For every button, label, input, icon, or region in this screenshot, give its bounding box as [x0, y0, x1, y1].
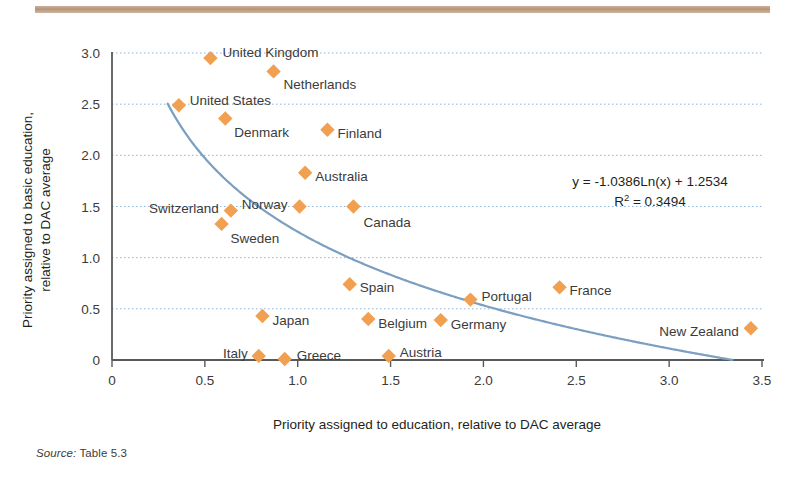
data-point-label: United Kingdom: [222, 45, 318, 60]
diamond-marker[interactable]: [744, 321, 758, 335]
data-point-label: Netherlands: [284, 77, 357, 92]
data-point-label: New Zealand: [659, 324, 739, 339]
data-point[interactable]: New Zealand: [659, 321, 758, 339]
y-tick-label: 0.5: [81, 302, 100, 317]
data-point[interactable]: Australia: [298, 166, 368, 184]
data-point-label: Sweden: [231, 231, 280, 246]
diamond-marker[interactable]: [298, 166, 312, 180]
source-label: Source:: [36, 447, 76, 459]
data-point[interactable]: France: [552, 280, 611, 298]
y-tick-label: 3.0: [81, 46, 100, 61]
diamond-marker[interactable]: [214, 217, 228, 231]
data-point-label: Greece: [297, 348, 341, 363]
x-tick-label: 1.0: [288, 373, 307, 388]
y-axis-title-line1: Priority assigned to basic education,: [20, 112, 35, 328]
diamond-marker[interactable]: [252, 349, 266, 363]
data-point-label: Canada: [363, 215, 411, 230]
y-tick-label: 0: [92, 353, 100, 368]
data-point[interactable]: Portugal: [463, 289, 531, 307]
diamond-marker[interactable]: [346, 199, 360, 213]
x-tick-label: 3.0: [660, 373, 679, 388]
data-point[interactable]: Norway: [242, 197, 307, 214]
y-tick-label: 1.0: [81, 251, 100, 266]
r-squared-prefix: R: [614, 194, 624, 209]
data-point[interactable]: Switzerland: [149, 201, 238, 218]
data-point-label: Portugal: [481, 289, 531, 304]
x-tick-label: 0: [108, 373, 116, 388]
data-point[interactable]: Italy: [223, 346, 266, 363]
diamond-marker[interactable]: [552, 280, 566, 294]
data-point[interactable]: Greece: [278, 348, 341, 366]
y-ticks-group: 00.51.01.52.02.53.0: [81, 46, 100, 368]
diamond-marker[interactable]: [266, 64, 280, 78]
data-point-label: Spain: [360, 280, 395, 295]
x-tick-label: 3.5: [753, 373, 772, 388]
data-point-label: Finland: [337, 126, 381, 141]
data-point[interactable]: Finland: [320, 123, 381, 141]
x-ticks-group: 00.51.01.52.02.53.03.5: [108, 360, 771, 388]
data-point-label: United States: [190, 93, 271, 108]
y-axis-title-line2: relative to DAC average: [38, 148, 53, 291]
data-point-label: Switzerland: [149, 201, 219, 216]
diamond-marker[interactable]: [463, 292, 477, 306]
scatter-chart-figure: 00.51.01.52.02.53.03.5 00.51.01.52.02.53…: [0, 0, 797, 477]
data-point[interactable]: Sweden: [214, 217, 279, 246]
y-tick-label: 2.5: [81, 97, 100, 112]
source-value: Table 5.3: [76, 447, 127, 459]
data-point[interactable]: Japan: [255, 309, 309, 328]
y-tick-label: 2.0: [81, 148, 100, 163]
data-point[interactable]: Spain: [343, 277, 395, 295]
data-point[interactable]: Netherlands: [266, 64, 356, 92]
x-tick-label: 0.5: [195, 373, 214, 388]
diamond-marker[interactable]: [292, 199, 306, 213]
data-point-label: Belgium: [378, 316, 427, 331]
diamond-marker[interactable]: [382, 349, 396, 363]
diamond-marker[interactable]: [343, 277, 357, 291]
diamond-marker[interactable]: [224, 203, 238, 217]
y-tick-label: 1.5: [81, 200, 100, 215]
diamond-marker[interactable]: [172, 98, 186, 112]
r-squared-value: = 0.3494: [629, 194, 686, 209]
data-point[interactable]: United States: [172, 93, 271, 112]
data-point[interactable]: Canada: [346, 199, 411, 229]
data-point[interactable]: United Kingdom: [203, 45, 318, 65]
diamond-marker[interactable]: [278, 352, 292, 366]
diamond-marker[interactable]: [434, 313, 448, 327]
data-point-label: Australia: [315, 169, 368, 184]
chart-svg: 00.51.01.52.02.53.03.5 00.51.01.52.02.53…: [0, 0, 797, 440]
x-axis-title: Priority assigned to education, relative…: [273, 417, 601, 432]
diamond-marker[interactable]: [255, 309, 269, 323]
trendline-equation-annotation: y = -1.0386Ln(x) + 1.2534: [572, 174, 728, 189]
source-note: Source: Table 5.3: [36, 447, 127, 459]
diamond-marker[interactable]: [218, 111, 232, 125]
data-point[interactable]: Germany: [434, 313, 507, 332]
data-point-label: Germany: [451, 317, 507, 332]
data-point-label: Japan: [272, 313, 309, 328]
data-point-label: Austria: [400, 345, 443, 360]
x-tick-label: 2.0: [474, 373, 493, 388]
x-tick-label: 2.5: [567, 373, 586, 388]
data-point-label: France: [570, 283, 612, 298]
data-point-label: Norway: [242, 197, 288, 212]
diamond-marker[interactable]: [320, 123, 334, 137]
data-point-label: Denmark: [234, 125, 289, 140]
x-tick-label: 1.5: [381, 373, 400, 388]
data-point[interactable]: Belgium: [361, 312, 427, 331]
diamond-marker[interactable]: [361, 312, 375, 326]
data-point-label: Italy: [223, 346, 248, 361]
data-point[interactable]: Denmark: [218, 111, 289, 140]
